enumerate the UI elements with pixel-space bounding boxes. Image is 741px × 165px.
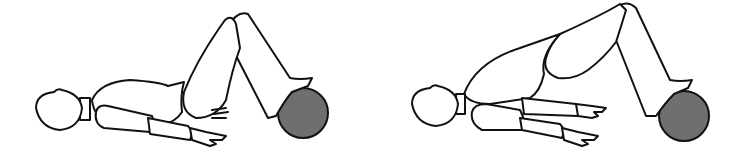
far-arm: [522, 98, 580, 116]
figure-panel-end: end position: [370, 0, 741, 165]
figure-panel-start: start position: [0, 0, 370, 165]
upper-arm: [472, 104, 524, 130]
thigh: [183, 18, 240, 118]
fingers: [212, 108, 228, 118]
head: [36, 89, 82, 130]
head: [412, 85, 458, 126]
far-hand: [576, 104, 606, 118]
hand: [562, 128, 598, 146]
mannequin-figure-end: [370, 0, 741, 165]
forearm: [520, 118, 564, 138]
mannequin-figure-start: [0, 0, 370, 165]
hand: [190, 128, 226, 146]
thigh: [545, 4, 626, 78]
